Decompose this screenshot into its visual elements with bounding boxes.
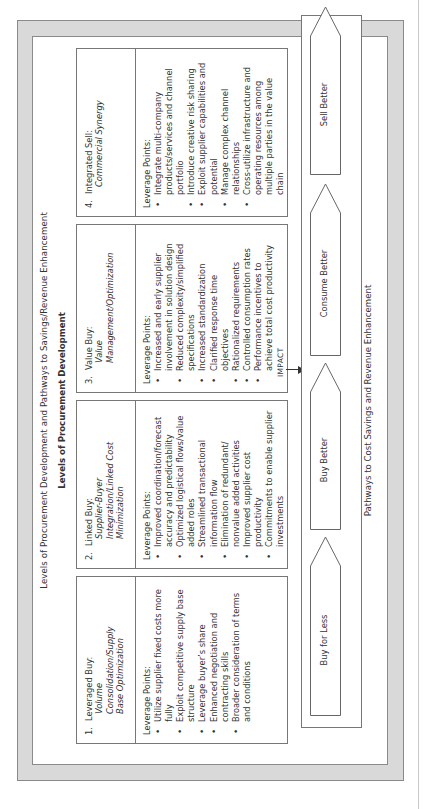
leverage-point: Commitments to enable supplier investmen… — [264, 407, 286, 560]
leverage-label: Leverage Points: — [142, 583, 153, 735]
level-number: 4. — [84, 200, 94, 208]
pathway-label: Consume Better — [319, 211, 329, 356]
leverage-point: Leverage buyer’s share — [197, 583, 208, 735]
level-3-card: 3. Value Buy: Value Management/Optimizat… — [76, 224, 288, 393]
pathway-sell-better: Sell Better — [310, 6, 340, 175]
leverage-point: Increased and early supplier involvement… — [153, 231, 175, 384]
pathway-buy-better: Buy Better — [310, 362, 340, 530]
leverage-label: Leverage Points: — [142, 55, 153, 208]
leverage-point: Broader consideration of terms and condi… — [231, 583, 253, 735]
leverage-list: Utilize supplier fixed costs more fully … — [153, 583, 253, 735]
level-1-card: 1. Leveraged Buy: Volume Consolidation/S… — [76, 576, 288, 744]
level-name: Linked Buy: — [84, 442, 94, 546]
levels-heading: Levels of Procurement Development — [57, 37, 67, 764]
leverage-point: Enhanced negotiation and contracting ski… — [209, 583, 231, 735]
level-focus: Commercial Synergy — [94, 100, 104, 194]
pathway-consume-better: Consume Better — [310, 183, 340, 356]
level-number: 2. — [84, 552, 94, 560]
leverage-point: Exploit competitive supply base structur… — [175, 583, 197, 735]
leverage-point: Clarified response time objectives — [209, 231, 231, 384]
level-header: 3. Value Buy: Value Management/Optimizat… — [77, 225, 136, 392]
level-body: Leverage Points: Integrate multi-company… — [136, 49, 287, 216]
pathway-label: Buy for Less — [319, 564, 329, 716]
leverage-label: Leverage Points: — [142, 407, 153, 560]
leverage-list: Improved coordination/forecast accuracy … — [153, 407, 286, 560]
level-focus: Minimization — [115, 442, 125, 546]
pathways-caption: Pathways to Cost Savings and Revenue Enh… — [363, 37, 373, 764]
leverage-point: Manage complex channel relationships — [220, 55, 242, 208]
level-name: Value Buy: — [84, 252, 94, 370]
leverage-point: Integrate multi-company products/service… — [153, 55, 186, 208]
leverage-point: Cross-utilize infrastructure and operati… — [242, 55, 286, 208]
pathway-buy-for-less: Buy for Less — [310, 536, 340, 716]
leverage-point: Optimized logistical flows/value added r… — [175, 407, 197, 560]
level-header: 1. Leveraged Buy: Volume Consolidation/S… — [77, 577, 136, 743]
level-number: 1. — [84, 727, 94, 735]
pathways-band: Buy for Less Buy Better Consume Better — [301, 15, 362, 728]
level-body: Leverage Points: Increased and early sup… — [136, 225, 287, 392]
level-header: 2. Linked Buy: Supplier-Buyer Integratio… — [77, 401, 136, 568]
level-2-card: 2. Linked Buy: Supplier-Buyer Integratio… — [76, 400, 288, 569]
level-focus: Management/Optimization — [105, 252, 115, 370]
level-body: Leverage Points: Improved coordination/f… — [136, 401, 287, 568]
level-focus: Volume — [94, 627, 104, 721]
pathway-label: Sell Better — [319, 34, 329, 175]
leverage-point: Introduce creative risk sharing — [186, 55, 197, 208]
level-4-card: 4. Integrated Sell: Commercial Synergy L… — [76, 48, 288, 217]
leverage-point: Reduced complexity/simplified specificat… — [175, 231, 197, 384]
leverage-label: Leverage Points: — [142, 231, 153, 384]
level-header: 4. Integrated Sell: Commercial Synergy — [77, 49, 136, 216]
leverage-point: Streamlined transactional information fl… — [197, 407, 219, 560]
pathway-label: Buy Better — [319, 390, 329, 530]
leverage-point: Increased standardization — [197, 231, 208, 384]
level-focus: Supplier-Buyer — [94, 442, 104, 546]
leverage-point: Controlled consumption rates — [242, 231, 253, 384]
leverage-point: Elimination of redundant/ nonvalue added… — [220, 407, 242, 560]
leverage-list: Integrate multi-company products/service… — [153, 55, 286, 208]
leverage-point: Utilize supplier fixed costs more fully — [153, 583, 175, 735]
leverage-point: Performance incentives to achieve total … — [253, 231, 275, 384]
level-focus: Value — [94, 252, 104, 370]
figure-panel: Levels of Procurement Development and Pa… — [32, 36, 388, 765]
level-focus: Base Optimization — [115, 627, 125, 721]
rotated-page: Levels of Procurement Development and Pa… — [0, 0, 428, 809]
level-focus: Integration/Linked Cost — [105, 442, 115, 546]
leverage-point: Rationalized requirements — [231, 231, 242, 384]
level-name: Leveraged Buy: — [84, 627, 94, 721]
leverage-point: Improved coordination/forecast accuracy … — [153, 407, 175, 560]
impact-label: IMPACT — [276, 348, 285, 377]
leverage-list: Increased and early supplier involvement… — [153, 231, 275, 384]
level-body: Leverage Points: Utilize supplier fixed … — [136, 577, 287, 743]
figure-title: Levels of Procurement Development and Pa… — [39, 37, 49, 764]
level-name: Integrated Sell: — [84, 100, 94, 194]
level-focus: Consolidation/Supply — [105, 627, 115, 721]
figure-frame: Levels of Procurement Development and Pa… — [17, 20, 404, 781]
leverage-point: Improved supplier cost productivity — [242, 407, 264, 560]
level-number: 3. — [84, 376, 94, 384]
leverage-point: Exploit supplier capabilities and potent… — [197, 55, 219, 208]
